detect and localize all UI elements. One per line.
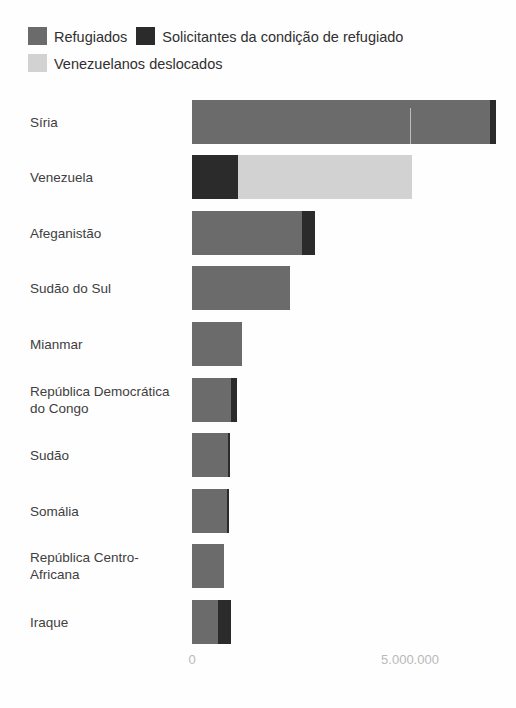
category-label: Afeganistão [30,225,185,242]
category-label: República Democrática do Congo [30,383,185,417]
bar-3[interactable] [192,266,290,310]
bar-4[interactable] [192,322,242,366]
bar-6[interactable] [192,433,230,477]
legend-item-0[interactable]: Refugiados [28,24,127,51]
bar-5[interactable] [192,378,237,422]
x-axis-tick-label: 0 [188,652,195,667]
bar-segment [192,266,290,310]
legend-item-label: Solicitantes da condição de refugiado [162,29,403,45]
bar-segment [192,322,242,366]
bar-segment [192,211,302,255]
x-axis: 05.000.000 [0,652,516,682]
legend-item-label: Venezuelanos deslocados [54,56,223,72]
category-label: Venezuela [30,169,185,186]
bar-segment [218,600,231,644]
bar-9[interactable] [192,600,231,644]
bar-8[interactable] [192,544,224,588]
category-label: República Centro-Africana [30,549,185,583]
category-label: Iraque [30,614,185,631]
bar-1[interactable] [192,155,412,199]
category-label: Síria [30,114,185,131]
legend-swatch-icon [28,27,47,45]
legend-swatch-icon [28,54,47,72]
bar-chart: RefugiadosSolicitantes da condição de re… [0,0,516,708]
bar-segment [228,433,230,477]
x-axis-tick-label: 5.000.000 [381,652,439,667]
chart-legend: RefugiadosSolicitantes da condição de re… [28,24,496,78]
bar-segment [192,378,231,422]
bar-segment [192,433,228,477]
bar-segment [192,489,227,533]
gridline [410,218,411,262]
bar-2[interactable] [192,211,315,255]
category-label: Somália [30,503,185,520]
category-label: Mianmar [30,336,185,353]
category-label: Sudão [30,447,185,464]
bar-segment [192,600,218,644]
bar-segment [490,100,496,144]
bar-segment [302,211,315,255]
gridline [410,108,411,152]
legend-item-label: Refugiados [54,29,127,45]
bar-segment [227,489,229,533]
bar-7[interactable] [192,489,229,533]
legend-item-2[interactable]: Venezuelanos deslocados [28,51,223,78]
bar-segment [231,378,237,422]
legend-swatch-icon [136,27,155,45]
bar-segment [192,155,238,199]
bar-0[interactable] [192,100,496,144]
bar-segment [238,155,412,199]
plot-area: SíriaVenezuelaAfeganistãoSudão do SulMia… [0,92,516,652]
category-label: Sudão do Sul [30,280,185,297]
bar-segment [192,544,224,588]
legend-item-1[interactable]: Solicitantes da condição de refugiado [136,24,403,51]
bar-segment [192,100,490,144]
